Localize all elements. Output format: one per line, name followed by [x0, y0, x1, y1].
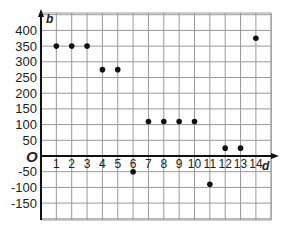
grid-lines: [41, 13, 271, 220]
y-tick-label: 400: [15, 23, 37, 38]
x-tick-label: 7: [145, 157, 152, 171]
x-tick-labels: 1234567891011121314: [53, 157, 263, 171]
y-tick-label: -150: [11, 196, 37, 211]
x-tick-label: 12: [219, 157, 233, 171]
y-tick-label: 200: [15, 86, 37, 101]
scatter-chart: 40035030025020015010050-50-100-150 12345…: [0, 0, 286, 233]
x-tick-label: 3: [84, 157, 91, 171]
x-tick-label: 2: [68, 157, 75, 171]
axes: [38, 9, 279, 220]
y-tick-label: 50: [23, 133, 37, 148]
x-tick-label: 11: [204, 157, 217, 171]
data-point: [207, 181, 213, 187]
x-tick-label: 10: [188, 157, 202, 171]
y-axis-label: b: [46, 12, 53, 26]
origin-label: O: [26, 148, 38, 165]
data-point: [253, 35, 259, 41]
x-axis-arrow-icon: [271, 153, 279, 159]
x-tick-label: 9: [176, 157, 183, 171]
data-point: [222, 145, 228, 151]
data-point: [115, 67, 121, 73]
data-point: [69, 43, 75, 49]
x-tick-label: 1: [53, 157, 60, 171]
x-tick-label: 4: [99, 157, 106, 171]
x-tick-label: 6: [130, 157, 137, 171]
data-point: [130, 169, 136, 175]
data-point: [192, 119, 198, 125]
x-tick-label: 13: [234, 157, 248, 171]
x-tick-label: 5: [114, 157, 121, 171]
data-point: [161, 119, 167, 125]
data-point: [100, 67, 106, 73]
data-point: [84, 43, 90, 49]
data-point: [54, 43, 60, 49]
y-tick-label: 300: [15, 54, 37, 69]
y-tick-label: 150: [15, 101, 37, 116]
y-tick-label: 250: [15, 70, 37, 85]
x-tick-label: 14: [249, 157, 263, 171]
data-point: [176, 119, 182, 125]
data-point: [238, 145, 244, 151]
x-tick-label: 8: [160, 157, 167, 171]
y-tick-label: 350: [15, 39, 37, 54]
data-point: [146, 119, 152, 125]
y-tick-labels: 40035030025020015010050-50-100-150: [11, 23, 37, 211]
x-axis-label: d: [262, 159, 270, 173]
y-tick-label: -100: [11, 180, 37, 195]
y-tick-label: 100: [15, 117, 37, 132]
y-tick-label: -50: [18, 164, 37, 179]
